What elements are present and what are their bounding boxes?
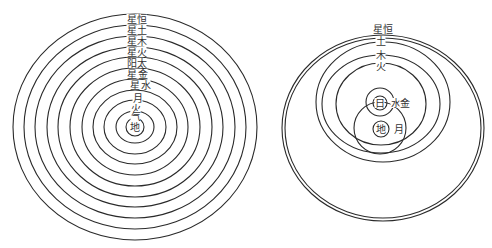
orbit-label: 火 [137,47,147,58]
orbit-label: 阳 [127,58,137,69]
geocentric-model: 恒星土星木星火星太阳金星水星月火气地 [13,13,257,240]
orbit-label: 月 [394,124,404,135]
orbit-label: 日 [375,98,385,109]
orbit-label: 金 [138,68,148,80]
orbit-label: 太 [137,57,147,69]
orbit-label: 木 [376,50,386,61]
orbit-label: 气 [131,110,141,122]
orbit-label: 恒 [383,23,393,35]
orbit-label: 星 [373,24,383,35]
orbit-label: 星 [127,14,137,25]
orbit-label: 星 [127,47,137,58]
orbit-label: 地 [130,121,140,133]
orbit-label: 星 [127,36,137,47]
orbit-label: 金 [400,97,410,109]
orbit-label: 星 [127,69,137,80]
orbit-label: 水 [141,80,151,91]
orbit-label: 土 [137,24,147,36]
orbit-label: 地 [376,123,386,135]
tychonic-model: 星恒土木火日水金地月 [282,23,484,221]
orbit-label: 土 [376,35,386,47]
orbit-label: 星 [130,80,140,91]
orbit-label: 星 [127,25,137,36]
orbit-label: 恒 [137,13,147,25]
orbit-label: 火 [376,61,386,72]
orbit-label: 木 [137,36,147,47]
cosmology-diagram: 恒星土星木星火星太阳金星水星月火气地 星恒土木火日水金地月 [0,0,492,248]
